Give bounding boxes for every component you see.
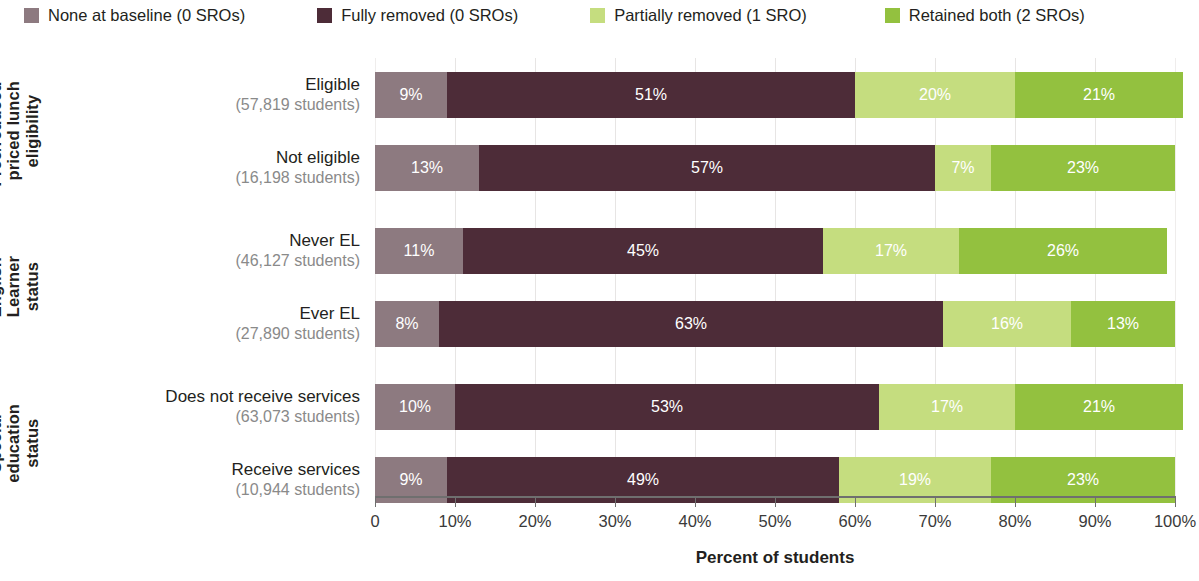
bar-segment-value-label: 57% [691,159,723,177]
bar-segment-value-label: 17% [875,242,907,260]
bar-segment-value-label: 11% [404,242,435,260]
bar-segment: 17% [823,228,959,274]
stacked-bar: 10%53%17%21% [375,384,1183,430]
x-axis-tick [1095,496,1096,507]
x-axis-tick [375,496,376,507]
legend-label: Partially removed (1 SRO) [614,6,807,25]
bar-segment: 53% [455,384,879,430]
bar-segment-value-label: 16% [991,315,1023,333]
x-axis-tick-label: 0 [370,512,379,531]
legend-swatch-partially-removed [590,8,605,23]
x-axis-tick-label: 40% [678,512,711,531]
legend-swatch-retained-both [885,8,900,23]
bar-segment-value-label: 9% [399,471,422,489]
bar-segment-value-label: 23% [1067,471,1099,489]
bar-segment: 8% [375,301,439,347]
bar-segment: 7% [935,145,991,191]
bar-segment-value-label: 45% [627,242,659,260]
row-count-label: (63,073 students) [235,408,360,427]
bar-segment: 16% [943,301,1071,347]
chart-row: Eligible(57,819 students)9%51%20%21% [0,58,1199,131]
bar-segment: 10% [375,384,455,430]
bar-segment-value-label: 20% [919,86,951,104]
bar-segment-value-label: 23% [1067,159,1099,177]
row-label: Eligible(57,819 students) [30,58,360,131]
x-axis-tick-label: 50% [758,512,791,531]
bar-segment: 21% [1015,384,1183,430]
x-axis-tick [615,496,616,507]
x-axis-tick-label: 70% [918,512,951,531]
x-axis-tick-label: 10% [438,512,471,531]
row-count-label: (10,944 students) [235,481,360,500]
chart-group: EnglishLearnerstatusNever EL(46,127 stud… [0,214,1199,360]
x-axis-tick [455,496,456,507]
stacked-bar: 9%51%20%21% [375,72,1183,118]
row-count-label: (16,198 students) [235,169,360,188]
x-axis-tick [935,496,936,507]
x-axis-tick-label: 80% [998,512,1031,531]
x-axis-tick-label: 100% [1154,512,1196,531]
chart-group: SpecialeducationstatusDoes not receive s… [0,370,1199,516]
legend-item: Partially removed (1 SRO) [590,6,807,25]
row-count-label: (57,819 students) [235,96,360,115]
x-axis-tick [775,496,776,507]
row-label: Receive services(10,944 students) [30,443,360,516]
x-axis: 010%20%30%40%50%60%70%80%90%100% [375,496,1175,497]
chart-row: Does not receive services(63,073 student… [0,370,1199,443]
chart-row: Not eligible(16,198 students)13%57%7%23% [0,131,1199,204]
chart-group: Free/reduced-priced luncheligibilityElig… [0,58,1199,204]
bar-segment: 51% [447,72,855,118]
legend-swatch-fully-removed [317,8,332,23]
bar-segment-value-label: 21% [1083,86,1115,104]
row-label: Ever EL(27,890 students) [30,287,360,360]
bar-segment-value-label: 26% [1047,242,1079,260]
bar-segment-value-label: 8% [395,315,418,333]
legend-item: None at baseline (0 SROs) [24,6,245,25]
x-axis-tick [1175,496,1176,507]
bar-segment-value-label: 49% [627,471,659,489]
row-label: Does not receive services(63,073 student… [30,370,360,443]
stacked-bar: 13%57%7%23% [375,145,1175,191]
bar-segment: 23% [991,145,1175,191]
bar-segment-value-label: 13% [411,159,443,177]
row-count-label: (46,127 students) [235,252,360,271]
bar-segment: 20% [855,72,1015,118]
x-axis-title: Percent of students [375,548,1175,568]
legend-label: Retained both (2 SROs) [909,6,1085,25]
x-axis-tick [855,496,856,507]
bar-segment-value-label: 21% [1083,398,1115,416]
bar-segment: 11% [375,228,463,274]
bar-segment-value-label: 9% [399,86,422,104]
row-label: Not eligible(16,198 students) [30,131,360,204]
chart-plot-area: Free/reduced-priced luncheligibilityElig… [0,58,1199,516]
x-axis-tick-label: 60% [838,512,871,531]
stacked-bar: 8%63%16%13% [375,301,1175,347]
row-category-label: Never EL [289,231,360,251]
legend-item: Retained both (2 SROs) [885,6,1085,25]
x-axis-tick [695,496,696,507]
row-category-label: Does not receive services [165,387,360,407]
x-axis-tick [1015,496,1016,507]
bar-segment: 26% [959,228,1167,274]
x-axis-tick [535,496,536,507]
bar-segment-value-label: 13% [1107,315,1139,333]
bar-segment-value-label: 51% [635,86,667,104]
row-label: Never EL(46,127 students) [30,214,360,287]
row-category-label: Receive services [232,460,361,480]
x-axis-tick-label: 90% [1078,512,1111,531]
chart-legend: None at baseline (0 SROs) Fully removed … [0,0,1199,30]
bar-segment: 9% [375,72,447,118]
legend-label: None at baseline (0 SROs) [48,6,245,25]
chart-row: Never EL(46,127 students)11%45%17%26% [0,214,1199,287]
bar-segment: 17% [879,384,1015,430]
legend-swatch-none-at-baseline [24,8,39,23]
chart-row: Receive services(10,944 students)9%49%19… [0,443,1199,516]
bar-segment: 13% [1071,301,1175,347]
stacked-bar: 11%45%17%26% [375,228,1167,274]
bar-segment: 63% [439,301,943,347]
x-axis-tick-label: 30% [598,512,631,531]
bar-segment: 13% [375,145,479,191]
bar-segment-value-label: 7% [951,159,974,177]
row-count-label: (27,890 students) [235,325,360,344]
legend-item: Fully removed (0 SROs) [317,6,518,25]
